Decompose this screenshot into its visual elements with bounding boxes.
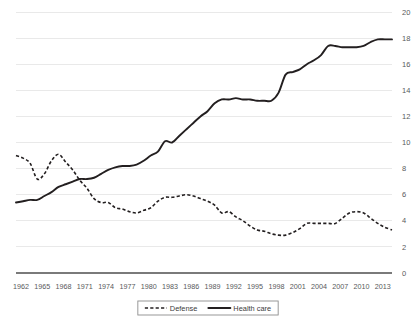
y-tick-label: 14 [402, 86, 410, 95]
y-tick-label: 18 [402, 34, 410, 43]
data-series [16, 39, 392, 235]
y-tick-label: 6 [402, 190, 406, 199]
x-tick-label: 2004 [311, 282, 327, 291]
x-axis-tick-labels: 1962196519681971197419771980198319861989… [13, 282, 391, 291]
legend-label-health-care[interactable]: Health care [233, 304, 271, 313]
chart-canvas: 02468101214161820 1962196519681971197419… [0, 0, 420, 331]
x-tick-label: 1968 [56, 282, 72, 291]
y-tick-label: 16 [402, 60, 410, 69]
chart-legend[interactable]: DefenseHealth care [138, 301, 278, 315]
x-tick-label: 2013 [375, 282, 391, 291]
x-tick-label: 1962 [13, 282, 29, 291]
y-tick-label: 10 [402, 138, 410, 147]
x-tick-label: 1986 [183, 282, 199, 291]
y-tick-label: 2 [402, 243, 406, 252]
y-tick-label: 8 [402, 164, 406, 173]
x-tick-label: 1971 [77, 282, 93, 291]
x-tick-label: 2001 [290, 282, 306, 291]
x-tick-label: 1974 [98, 282, 114, 291]
x-tick-label: 2007 [332, 282, 348, 291]
line-chart: 02468101214161820 1962196519681971197419… [0, 0, 420, 331]
x-tick-label: 2010 [354, 282, 370, 291]
y-axis-tick-labels: 02468101214161820 [402, 8, 410, 278]
x-tick-label: 1989 [205, 282, 221, 291]
gridlines [16, 12, 392, 273]
x-tick-label: 1977 [119, 282, 135, 291]
x-tick-label: 1965 [34, 282, 50, 291]
x-tick-label: 1992 [226, 282, 242, 291]
x-tick-label: 1980 [141, 282, 157, 291]
x-tick-label: 1998 [268, 282, 284, 291]
y-tick-label: 20 [402, 8, 410, 17]
x-tick-label: 1995 [247, 282, 263, 291]
y-tick-label: 4 [402, 216, 406, 225]
x-tick-label: 1983 [162, 282, 178, 291]
y-tick-label: 0 [402, 269, 406, 278]
y-tick-label: 12 [402, 112, 410, 121]
legend-label-defense[interactable]: Defense [170, 304, 198, 313]
